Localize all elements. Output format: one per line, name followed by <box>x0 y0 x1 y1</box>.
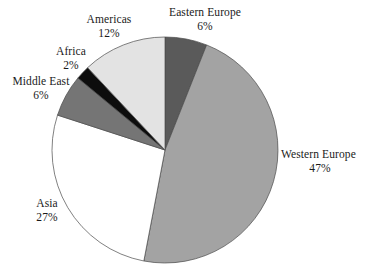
pie-label-eastern-europe-name: Eastern Europe <box>150 6 260 20</box>
pie-label-western-europe-value: 47% <box>281 162 359 176</box>
pie-label-africa-value: 2% <box>38 59 104 73</box>
pie-label-eastern-europe-value: 6% <box>150 20 260 34</box>
pie-label-asia-value: 27% <box>17 211 77 225</box>
pie-label-eastern-europe: Eastern Europe 6% <box>150 6 260 33</box>
pie-label-americas: Americas 12% <box>67 13 151 40</box>
pie-chart-canvas <box>0 0 365 277</box>
pie-label-middle-east-value: 6% <box>2 89 80 103</box>
pie-label-middle-east: Middle East 6% <box>2 75 80 102</box>
pie-label-americas-name: Americas <box>67 13 151 27</box>
pie-label-middle-east-name: Middle East <box>2 75 80 89</box>
pie-label-asia: Asia 27% <box>17 197 77 224</box>
pie-label-africa-name: Africa <box>38 45 104 59</box>
pie-label-asia-name: Asia <box>17 197 77 211</box>
pie-label-western-europe-name: Western Europe <box>281 148 365 162</box>
pie-label-americas-value: 12% <box>67 27 151 41</box>
pie-label-western-europe: Western Europe 47% <box>281 148 365 175</box>
pie-chart: Eastern Europe 6% Americas 12% Africa 2%… <box>0 0 365 277</box>
pie-label-africa: Africa 2% <box>38 45 104 72</box>
